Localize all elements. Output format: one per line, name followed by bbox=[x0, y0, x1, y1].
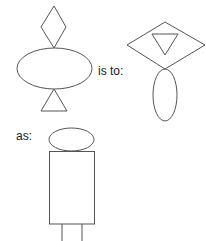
figure-a-triangle-up bbox=[41, 89, 67, 111]
as-label: as: bbox=[16, 130, 32, 142]
figure-b-diamond bbox=[127, 22, 205, 69]
figure-b bbox=[127, 22, 205, 121]
figure-b-ellipse-vertical bbox=[153, 69, 177, 121]
figure-c bbox=[49, 128, 95, 241]
is-to-label: is to: bbox=[98, 65, 123, 77]
figure-b-triangle-down bbox=[152, 34, 178, 55]
figure-a-diamond bbox=[41, 6, 66, 48]
analogy-shapes bbox=[0, 0, 206, 241]
figure-a bbox=[17, 6, 92, 111]
figure-a-ellipse bbox=[17, 48, 92, 89]
figure-c-rectangle bbox=[50, 152, 95, 225]
figure-c-ellipse bbox=[49, 128, 94, 151]
analogy-diagram: is to: as: bbox=[0, 0, 206, 241]
